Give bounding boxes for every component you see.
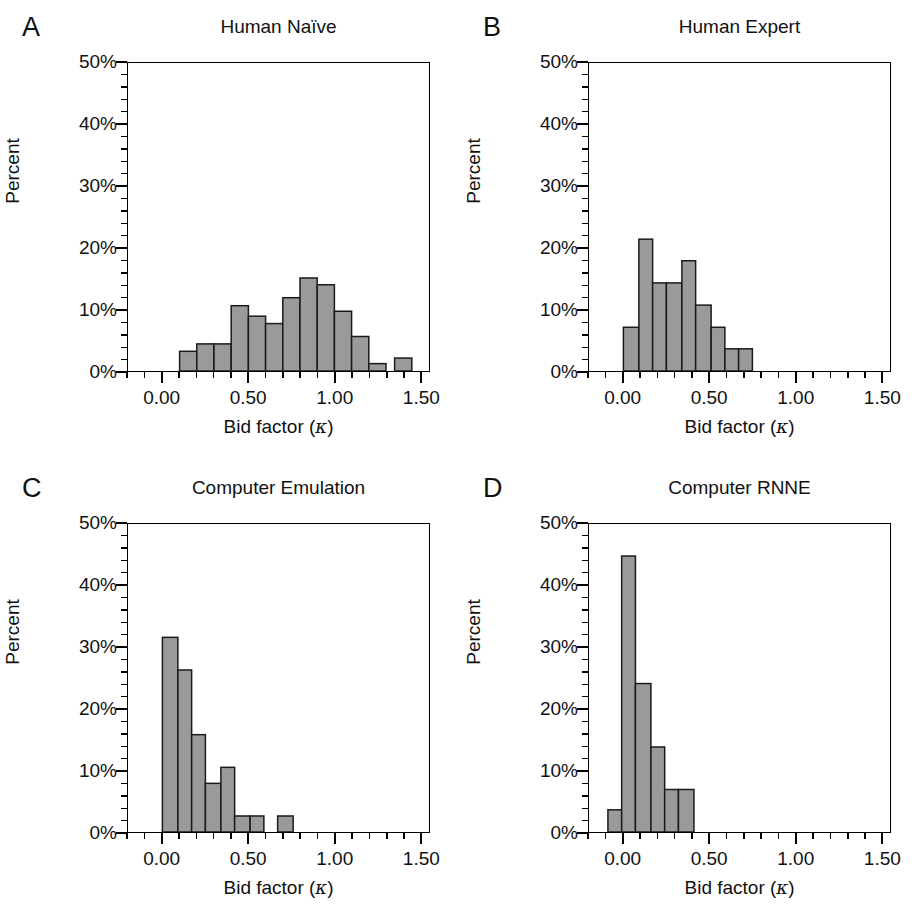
- x-minor-tick: [144, 372, 146, 378]
- histogram-bar: [317, 285, 334, 371]
- y-tick-label: 0%: [516, 362, 578, 381]
- y-major-tick: [577, 61, 588, 63]
- x-minor-tick: [812, 833, 814, 839]
- y-tick-label: 40%: [516, 575, 578, 594]
- x-minor-tick: [743, 372, 745, 378]
- x-tick-label: 1.00: [759, 388, 833, 407]
- x-minor-tick: [196, 372, 198, 378]
- x-axis-label-suffix: ): [788, 877, 794, 898]
- histogram-bar: [711, 327, 725, 371]
- histogram-bar: [666, 283, 681, 371]
- y-tick-label: 0%: [55, 823, 117, 842]
- y-tick-label: 40%: [516, 114, 578, 133]
- histogram-bar: [162, 637, 177, 832]
- y-major-tick: [116, 309, 127, 311]
- x-major-tick: [708, 372, 710, 383]
- y-tick-label: 20%: [55, 238, 117, 257]
- y-tick-label: 10%: [55, 761, 117, 780]
- histogram-bar: [352, 337, 369, 371]
- x-major-tick: [881, 833, 883, 844]
- x-tick-label: 1.50: [845, 849, 919, 868]
- x-minor-tick: [403, 372, 405, 378]
- x-minor-tick: [213, 833, 215, 839]
- histogram-bar: [178, 670, 192, 832]
- x-minor-tick: [639, 833, 641, 839]
- plot-area-c: [127, 523, 430, 833]
- x-minor-tick: [587, 372, 589, 378]
- x-major-tick: [420, 372, 422, 383]
- x-axis-label-prefix: Bid factor (: [223, 416, 315, 437]
- y-tick-label: 20%: [516, 699, 578, 718]
- plot-area-d: [588, 523, 891, 833]
- y-major-tick: [116, 522, 127, 524]
- x-minor-tick: [386, 372, 388, 378]
- histogram-bars: [128, 63, 429, 371]
- histogram-bar: [623, 327, 638, 371]
- x-minor-tick: [317, 833, 319, 839]
- x-minor-tick: [299, 372, 301, 378]
- x-tick-label: 0.50: [211, 849, 285, 868]
- y-tick-label: 50%: [516, 52, 578, 71]
- histogram-bar: [248, 316, 265, 371]
- y-tick-label: 50%: [55, 513, 117, 532]
- x-minor-tick: [213, 372, 215, 378]
- y-major-tick: [577, 522, 588, 524]
- x-minor-tick: [230, 372, 232, 378]
- x-minor-tick: [386, 833, 388, 839]
- y-axis-label: Percent: [2, 527, 24, 737]
- x-minor-tick: [403, 833, 405, 839]
- histogram-bar: [278, 816, 293, 832]
- y-major-tick: [116, 185, 127, 187]
- x-major-tick: [161, 372, 163, 383]
- y-tick-label: 50%: [516, 513, 578, 532]
- y-tick-label: 40%: [55, 575, 117, 594]
- x-minor-tick: [144, 833, 146, 839]
- x-minor-tick: [657, 833, 659, 839]
- y-tick-label: 20%: [55, 699, 117, 718]
- histogram-bar: [395, 358, 412, 371]
- y-major-tick: [116, 123, 127, 125]
- x-minor-tick: [864, 372, 866, 378]
- y-major-tick: [116, 646, 127, 648]
- histogram-bar: [300, 278, 317, 371]
- y-axis-label: Percent: [463, 66, 485, 276]
- histogram-bar: [197, 344, 214, 371]
- histogram-bar: [725, 349, 739, 371]
- histogram-bars: [589, 524, 890, 832]
- kappa-symbol: κ: [776, 416, 788, 437]
- x-minor-tick: [760, 833, 762, 839]
- histogram-bar: [214, 344, 231, 371]
- histogram-bar: [192, 735, 206, 832]
- x-major-tick: [420, 833, 422, 844]
- histogram-bar: [651, 747, 665, 832]
- y-major-tick: [577, 584, 588, 586]
- x-minor-tick: [778, 833, 780, 839]
- x-minor-tick: [265, 372, 267, 378]
- x-minor-tick: [726, 372, 728, 378]
- kappa-symbol: κ: [315, 416, 327, 437]
- y-major-tick: [577, 770, 588, 772]
- x-major-tick: [795, 833, 797, 844]
- x-major-tick: [247, 833, 249, 844]
- x-minor-tick: [299, 833, 301, 839]
- x-minor-tick: [743, 833, 745, 839]
- y-tick-label: 40%: [55, 114, 117, 133]
- x-minor-tick: [605, 372, 607, 378]
- x-minor-tick: [830, 372, 832, 378]
- x-major-tick: [247, 372, 249, 383]
- x-minor-tick: [830, 833, 832, 839]
- x-minor-tick: [605, 833, 607, 839]
- y-tick-label: 10%: [55, 300, 117, 319]
- panel-title-b: Human Expert: [588, 16, 891, 38]
- y-major-tick: [577, 123, 588, 125]
- panel-b: BHuman ExpertPercent50%40%30%20%10%0%0.0…: [461, 0, 921, 461]
- plot-area-b: [588, 62, 891, 372]
- y-tick-label: 10%: [516, 300, 578, 319]
- x-minor-tick: [691, 833, 693, 839]
- x-minor-tick: [230, 833, 232, 839]
- x-axis-label-suffix: ): [327, 877, 333, 898]
- histogram-bar: [622, 556, 636, 832]
- histogram-bar: [266, 324, 283, 371]
- y-tick-label: 30%: [55, 637, 117, 656]
- x-tick-label: 1.50: [384, 849, 458, 868]
